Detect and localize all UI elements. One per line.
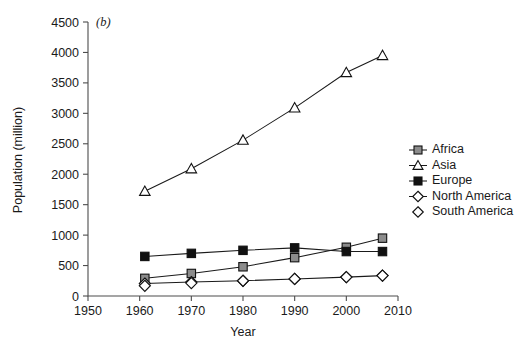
figure-panel-b: 050010001500200025003000350040004500 195… [0,0,521,342]
x-tick-label: 1990 [281,304,309,318]
series-marker [141,252,149,260]
y-tick-label: 3500 [51,76,79,90]
panel-label: (b) [96,15,111,29]
y-tick-label: 0 [72,290,79,304]
y-axis-title: Population (million) [11,107,25,213]
y-tick-label: 1000 [51,229,79,243]
series-marker [378,234,386,242]
legend-marker [414,146,422,154]
legend-label: Asia [432,158,456,172]
legend-label: Europe [432,173,472,187]
x-tick-label: 1950 [74,304,102,318]
y-tick-label: 1500 [51,198,79,212]
y-tick-label: 3000 [51,107,79,121]
x-tick-label: 2000 [332,304,360,318]
legend-label: North America [432,189,511,203]
legend-label: South America [432,204,513,218]
legend-marker [414,177,422,185]
x-axis-title: Year [230,325,255,339]
y-tick-label: 4000 [51,46,79,60]
y-tick-label: 500 [58,259,79,273]
x-tick-label: 1960 [126,304,154,318]
y-tick-label: 2500 [51,137,79,151]
x-tick-label: 1970 [177,304,205,318]
series-marker [239,263,247,271]
legend-label: Africa [432,142,464,156]
population-line-chart: 050010001500200025003000350040004500 195… [0,0,521,342]
series-marker [239,246,247,254]
series-marker [342,247,350,255]
x-tick-label: 2010 [384,304,412,318]
series-marker [290,244,298,252]
y-tick-label: 2000 [51,168,79,182]
series-marker [187,249,195,257]
x-tick-label: 1980 [229,304,257,318]
series-marker [378,247,386,255]
y-tick-label: 4500 [51,16,79,30]
series-marker [290,253,298,261]
